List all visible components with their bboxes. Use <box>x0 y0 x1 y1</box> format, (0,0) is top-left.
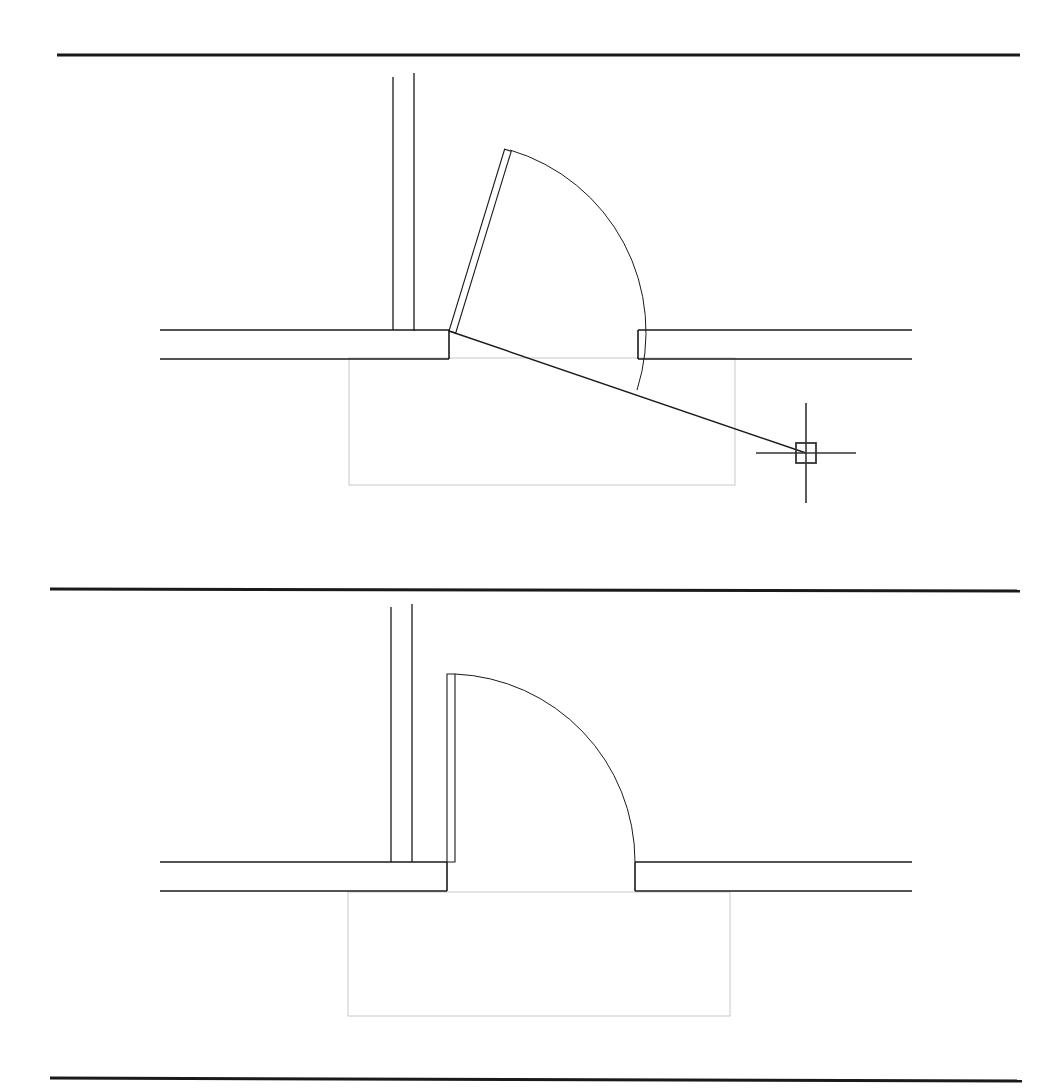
door-leaf[interactable] <box>449 149 511 333</box>
separator-rules <box>50 55 1022 1081</box>
middle-rule <box>50 589 1020 591</box>
crosshair-cursor[interactable] <box>756 403 856 503</box>
door-leaf[interactable] <box>447 674 455 862</box>
cad-drawing-page <box>0 0 1059 1090</box>
door-open-partial-with-cursor <box>160 73 912 503</box>
helper-rectangle <box>348 892 730 1016</box>
door-swing-arc <box>455 674 635 862</box>
rubber-band-line <box>449 331 806 453</box>
door-swing-arc <box>510 150 646 390</box>
bottom-rule <box>50 1078 1022 1081</box>
wall-group <box>160 73 912 359</box>
cad-canvas[interactable] <box>0 0 1059 1090</box>
wall-group <box>160 604 912 891</box>
helper-rectangle <box>349 358 735 485</box>
door-closed-ninety-degrees <box>160 604 912 1016</box>
